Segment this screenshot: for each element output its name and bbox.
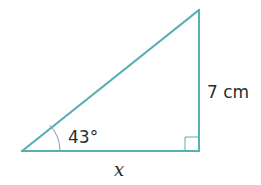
hypotenuse	[22, 10, 199, 151]
side-length-label: 7 cm	[207, 82, 249, 102]
right-angle-marker	[185, 137, 199, 151]
angle-label: 43°	[68, 127, 98, 147]
angle-arc	[50, 125, 60, 151]
right-triangle-diagram: 43° 7 cm x	[0, 0, 261, 185]
unknown-side-label: x	[114, 159, 124, 180]
